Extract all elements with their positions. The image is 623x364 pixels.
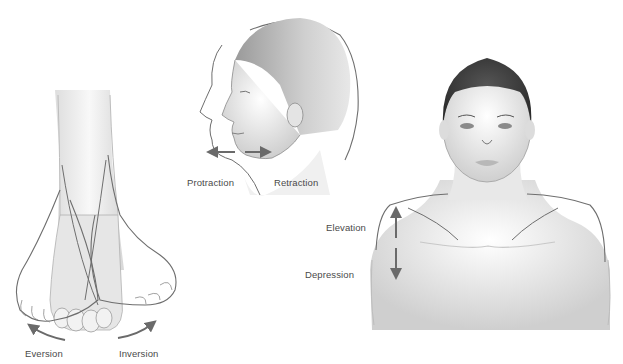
shoulders-figure [370,58,610,330]
elevation-label: Elevation [326,222,366,233]
protraction-label: Protraction [187,177,234,188]
inversion-arrow [118,324,152,338]
head-figure [200,18,358,196]
depression-label: Depression [305,269,354,280]
eversion-arrow [32,327,65,340]
inversion-label: Inversion [119,348,158,359]
foot-figure [16,90,176,332]
eversion-label: Eversion [25,348,63,359]
retraction-label: Retraction [274,177,318,188]
